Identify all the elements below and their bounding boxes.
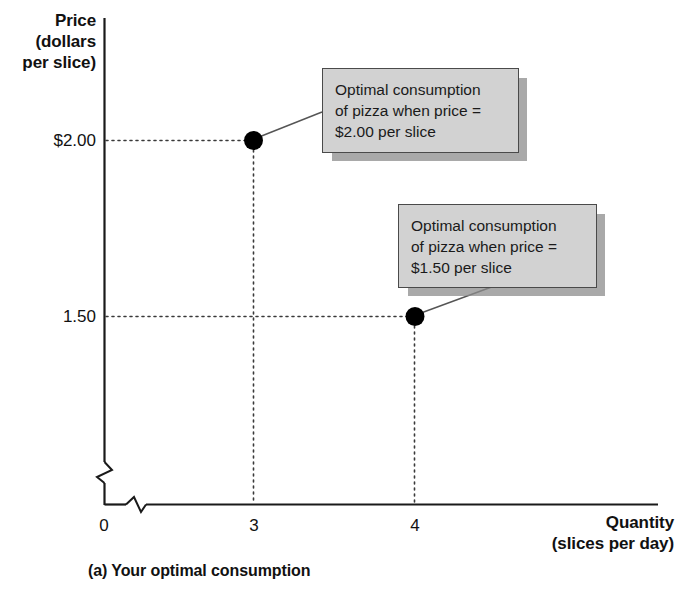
x-axis-break-icon	[126, 497, 146, 512]
callout-box-price-150: Optimal consumption of pizza when price …	[398, 204, 597, 288]
data-point-1.50	[406, 307, 425, 326]
callout-text-price-150: Optimal consumption of pizza when price …	[411, 215, 585, 278]
callout-box-price-200: Optimal consumption of pizza when price …	[322, 68, 519, 153]
x-tick-label-3: 3	[234, 516, 274, 535]
leader-line-200	[259, 112, 322, 137]
y-axis-break-icon	[97, 462, 112, 483]
y-tick-label-150: 1.50	[8, 307, 96, 326]
leader-line-150	[421, 285, 497, 313]
y-axis-title: Price (dollars per slice)	[0, 10, 96, 73]
data-point-2.00	[244, 131, 263, 150]
x-tick-label-4: 4	[395, 516, 435, 535]
callout-text-price-200: Optimal consumption of pizza when price …	[335, 79, 507, 142]
figure-caption: (a) Your optimal consumption	[88, 562, 310, 580]
optimal-consumption-figure: Price (dollars per slice) Quantity (slic…	[0, 0, 678, 599]
x-tick-label-0: 0	[84, 516, 124, 535]
x-axis-title: Quantity (slices per day)	[478, 512, 674, 554]
y-tick-label-200: $2.00	[8, 131, 96, 150]
